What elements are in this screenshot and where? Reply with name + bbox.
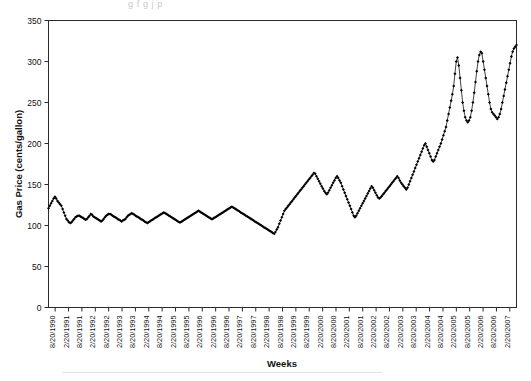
x-axis-tick-label: 8/20/1994 [155, 316, 164, 348]
x-axis: 8/20/19902/20/19918/20/19912/20/19928/20… [48, 308, 512, 348]
x-axis-tick-label: 8/20/2005 [463, 316, 472, 348]
y-axis: 050100150200250300350 [27, 16, 48, 313]
x-axis-tick-label: 2/20/2000 [316, 316, 325, 348]
y-axis-tick-label: 250 [27, 98, 41, 108]
gas-price-figure: g f g j p 050100150200250300350 8/20/199… [0, 0, 531, 381]
x-axis-tick-label: 2/20/2007 [503, 316, 512, 348]
y-axis-title: Gas Price (cents/gallon) [13, 110, 24, 218]
x-axis-tick-label: 2/20/1992 [88, 316, 97, 348]
x-axis-tick-label: 2/20/1993 [115, 316, 124, 348]
x-axis-tick-label: 2/20/2003 [396, 316, 405, 348]
x-axis-tick-label: 2/20/1998 [262, 316, 271, 348]
x-axis-tick-label: 8/20/2002 [382, 316, 391, 348]
y-axis-tick-label: 100 [27, 221, 41, 231]
y-axis-tick-label: 50 [32, 262, 42, 272]
x-axis-tick-label: 2/20/2004 [423, 316, 432, 348]
x-axis-tick-label: 8/20/1991 [75, 316, 84, 348]
x-axis-tick-label: 2/20/1996 [209, 316, 218, 348]
y-axis-tick-label: 350 [27, 16, 41, 26]
x-axis-title: Weeks [267, 358, 297, 369]
y-axis-tick-label: 150 [27, 180, 41, 190]
x-axis-tick-label: 2/20/2006 [476, 315, 485, 347]
y-axis-tick-label: 300 [27, 57, 41, 67]
y-axis-tick-label: 0 [37, 303, 42, 313]
x-axis-tick-label: 8/20/1990 [48, 316, 57, 348]
x-axis-tick-label: 8/20/1993 [128, 316, 137, 348]
x-axis-tick-label: 8/20/1999 [302, 316, 311, 348]
x-axis-tick-label: 2/20/1991 [62, 316, 71, 348]
x-axis-tick-label: 2/20/2005 [449, 316, 458, 348]
x-axis-tick-label: 2/20/1996 [195, 316, 204, 348]
gas-price-line-chart: 050100150200250300350 8/20/19902/20/1991… [0, 0, 531, 381]
x-axis-tick-label: 8/20/2000 [329, 316, 338, 348]
x-axis-tick-label: 8/20/2006 [489, 316, 498, 348]
x-axis-tick-label: 8/20/1998 [276, 316, 285, 348]
x-axis-tick-label: 2/20/1995 [169, 316, 178, 348]
x-axis-tick-label: 2/20/2002 [369, 316, 378, 348]
x-axis-tick-label: 8/20/2003 [409, 316, 418, 348]
x-axis-tick-label: 2/20/1999 [289, 316, 298, 348]
x-axis-tick-label: 8/20/2004 [436, 316, 445, 348]
x-axis-tick-label: 8/20/2001 [356, 316, 365, 348]
x-axis-tick-label: 8/20/1995 [182, 316, 191, 348]
x-axis-tick-label: 2/20/2001 [342, 316, 351, 348]
x-axis-tick-label: 8/20/1997 [249, 316, 258, 348]
plot-frame [49, 21, 517, 308]
x-axis-tick-label: 8/20/1996 [222, 316, 231, 348]
x-axis-tick-label: 8/20/1992 [102, 316, 111, 348]
y-axis-tick-label: 200 [27, 139, 41, 149]
x-axis-tick-label: 2/20/1994 [142, 316, 151, 348]
x-axis-tick-label: 2/20/1997 [235, 316, 244, 348]
